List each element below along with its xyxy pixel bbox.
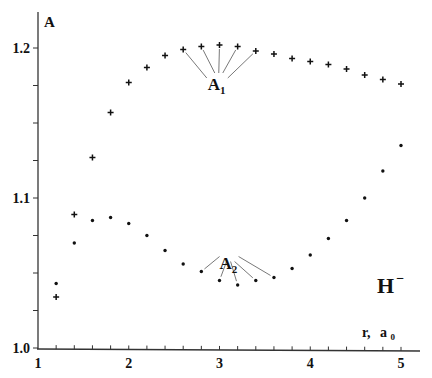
series-label-a1: A1 <box>208 75 226 96</box>
x-axis-line <box>37 349 420 351</box>
scatter-chart: 1.01.11.212345 A r, a 0 A1 A2 H− <box>0 0 432 378</box>
data-point-a1 <box>344 66 350 72</box>
data-point-a1 <box>289 56 295 62</box>
data-point-a2 <box>290 267 293 270</box>
x-tick-label: 1 <box>35 356 42 371</box>
annotation-leader-lines <box>186 49 271 281</box>
data-point-a2 <box>363 196 366 199</box>
data-point-a2 <box>54 282 57 285</box>
series-label-a2: A2 <box>220 254 238 275</box>
data-point-a1 <box>198 44 204 50</box>
data-point-a2 <box>327 237 330 240</box>
leader-line <box>203 50 215 73</box>
x-tick-label: 2 <box>125 356 132 371</box>
x-tick-label: 3 <box>216 356 223 371</box>
leader-line <box>223 50 236 73</box>
data-point-a1 <box>53 294 59 300</box>
data-point-a1 <box>108 110 114 116</box>
data-point-a2 <box>272 276 275 279</box>
y-tick-label: 1.1 <box>13 191 31 206</box>
x-tick-label: 4 <box>307 356 314 371</box>
data-point-a2 <box>182 262 185 265</box>
data-point-a1 <box>235 44 241 50</box>
data-point-a2 <box>73 241 76 244</box>
data-point-a2 <box>145 234 148 237</box>
data-point-a1 <box>162 53 168 59</box>
data-point-a1 <box>362 72 368 78</box>
leader-line <box>239 257 271 276</box>
x-tick-label: 5 <box>398 356 405 371</box>
data-point-a2 <box>345 219 348 222</box>
data-point-a1 <box>307 59 313 65</box>
leader-line <box>186 53 207 78</box>
data-point-a2 <box>399 144 402 147</box>
data-point-a1 <box>126 80 132 86</box>
y-axis-label: A <box>44 14 55 30</box>
data-point-a1 <box>380 77 386 83</box>
data-point-a2 <box>236 283 239 286</box>
data-point-a2 <box>254 279 257 282</box>
data-point-a2 <box>381 169 384 172</box>
data-point-a2 <box>218 279 221 282</box>
data-point-a2 <box>200 270 203 273</box>
data-point-a2 <box>163 249 166 252</box>
y-tick-label: 1.2 <box>13 41 31 56</box>
data-point-a1 <box>253 48 259 54</box>
data-point-a1 <box>144 65 150 71</box>
data-point-a1 <box>180 47 186 53</box>
data-point-a2 <box>109 216 112 219</box>
data-point-a1 <box>89 155 95 161</box>
data-point-a1 <box>325 62 331 68</box>
data-point-a2 <box>91 219 94 222</box>
data-point-a1 <box>271 51 277 57</box>
data-point-a2 <box>309 253 312 256</box>
x-axis-label: r, a 0 <box>362 325 395 342</box>
data-point-a1 <box>217 42 223 48</box>
leader-line <box>219 49 220 73</box>
y-tick-label: 1.0 <box>13 341 31 356</box>
data-point-a2 <box>127 222 130 225</box>
species-label: H− <box>377 271 404 298</box>
leader-line <box>204 257 219 269</box>
data-point-a1 <box>398 81 404 87</box>
data-point-a1 <box>71 212 77 218</box>
